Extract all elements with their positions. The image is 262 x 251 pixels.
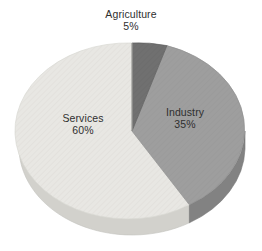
pie-label-agriculture: Agriculture 5% <box>0 8 262 33</box>
pie-label-services-value: 60% <box>44 124 122 136</box>
pie-label-services-name: Services <box>44 112 122 124</box>
pie-label-services: Services 60% <box>44 112 122 137</box>
pie-chart: Agriculture 5% Industry 35% Services 60% <box>0 0 262 251</box>
pie-label-industry-value: 35% <box>148 118 222 130</box>
pie-label-industry: Industry 35% <box>148 106 222 131</box>
pie-chart-graphic <box>0 0 262 251</box>
pie-label-industry-name: Industry <box>148 106 222 118</box>
pie-label-agriculture-name: Agriculture <box>0 8 262 20</box>
pie-label-agriculture-value: 5% <box>0 20 262 32</box>
